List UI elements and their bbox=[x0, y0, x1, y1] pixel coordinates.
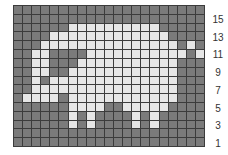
grid-cell bbox=[150, 15, 158, 23]
grid-cell bbox=[114, 6, 122, 14]
grid-cell bbox=[14, 59, 22, 67]
grid-cell bbox=[87, 41, 95, 49]
grid-cell bbox=[96, 121, 104, 129]
grid-cell bbox=[96, 59, 104, 67]
grid-cell bbox=[141, 50, 149, 58]
grid-cell bbox=[69, 85, 77, 93]
grid-cell bbox=[105, 77, 113, 85]
grid-cell bbox=[23, 15, 31, 23]
grid-cell bbox=[96, 6, 104, 14]
grid-cell bbox=[23, 77, 31, 85]
grid-cell bbox=[132, 50, 140, 58]
grid-cell bbox=[105, 32, 113, 40]
grid-cell bbox=[178, 85, 186, 93]
grid-cell bbox=[123, 103, 131, 111]
grid-cell bbox=[14, 77, 22, 85]
grid-cell bbox=[78, 121, 86, 129]
grid-cell bbox=[59, 32, 67, 40]
grid-cell bbox=[123, 138, 131, 146]
grid-cell bbox=[132, 41, 140, 49]
grid-cell bbox=[169, 121, 177, 129]
grid-cell bbox=[187, 6, 195, 14]
grid-cell bbox=[187, 41, 195, 49]
grid-cell bbox=[114, 138, 122, 146]
row-label-5: 5 bbox=[208, 104, 228, 113]
grid-cell bbox=[32, 94, 40, 102]
grid-cell bbox=[50, 41, 58, 49]
grid-cell bbox=[59, 103, 67, 111]
grid-cell bbox=[160, 41, 168, 49]
grid-cell bbox=[50, 103, 58, 111]
grid-cell bbox=[50, 68, 58, 76]
grid-cell bbox=[69, 41, 77, 49]
grid-cell bbox=[41, 129, 49, 137]
grid-cell bbox=[50, 94, 58, 102]
grid-cell bbox=[141, 15, 149, 23]
grid-cell bbox=[32, 129, 40, 137]
grid-cell bbox=[105, 24, 113, 32]
grid-cell bbox=[187, 59, 195, 67]
grid-cell bbox=[105, 103, 113, 111]
grid-cell bbox=[87, 50, 95, 58]
grid-cell bbox=[59, 50, 67, 58]
grid-cell bbox=[32, 68, 40, 76]
grid-cell bbox=[41, 112, 49, 120]
grid-cell bbox=[187, 103, 195, 111]
grid-cell bbox=[187, 24, 195, 32]
grid-cell bbox=[14, 112, 22, 120]
grid-cell bbox=[132, 121, 140, 129]
grid-cell bbox=[78, 85, 86, 93]
grid-cell bbox=[187, 121, 195, 129]
grid-cell bbox=[169, 15, 177, 23]
grid-cell bbox=[87, 6, 95, 14]
grid-cell bbox=[169, 50, 177, 58]
grid-cell bbox=[14, 68, 22, 76]
grid-cell bbox=[105, 68, 113, 76]
grid-cell bbox=[160, 112, 168, 120]
grid-cell bbox=[169, 32, 177, 40]
grid-cell bbox=[69, 15, 77, 23]
grid-cell bbox=[132, 85, 140, 93]
grid-cell bbox=[178, 41, 186, 49]
grid-cell bbox=[41, 24, 49, 32]
grid-cell bbox=[96, 24, 104, 32]
grid-cell bbox=[41, 50, 49, 58]
grid-cell bbox=[69, 138, 77, 146]
grid-cell bbox=[114, 41, 122, 49]
grid-cell bbox=[78, 32, 86, 40]
grid-cell bbox=[150, 94, 158, 102]
grid-cell bbox=[160, 85, 168, 93]
grid-cell bbox=[59, 85, 67, 93]
grid-cell bbox=[132, 59, 140, 67]
grid-cell bbox=[96, 68, 104, 76]
grid-cell bbox=[196, 129, 204, 137]
grid-cell bbox=[123, 77, 131, 85]
grid-cell bbox=[96, 138, 104, 146]
row-label-13: 13 bbox=[208, 33, 228, 42]
grid-cell bbox=[169, 138, 177, 146]
grid-cell bbox=[23, 129, 31, 137]
grid-cell bbox=[178, 112, 186, 120]
grid-cell bbox=[87, 85, 95, 93]
grid-cell bbox=[78, 6, 86, 14]
grid-cell bbox=[178, 68, 186, 76]
grid-cell bbox=[169, 85, 177, 93]
grid-cell bbox=[32, 32, 40, 40]
grid-cell bbox=[50, 121, 58, 129]
grid-cell bbox=[69, 94, 77, 102]
grid-cell bbox=[169, 6, 177, 14]
grid-cell bbox=[23, 112, 31, 120]
row-label-3: 3 bbox=[208, 121, 228, 130]
grid-cell bbox=[87, 138, 95, 146]
grid-cell bbox=[105, 6, 113, 14]
grid-cell bbox=[196, 94, 204, 102]
grid-cell bbox=[96, 112, 104, 120]
grid-cell bbox=[105, 15, 113, 23]
grid-cell bbox=[23, 59, 31, 67]
grid-cell bbox=[105, 85, 113, 93]
grid-cell bbox=[178, 6, 186, 14]
grid-cell bbox=[114, 85, 122, 93]
grid-cell bbox=[150, 129, 158, 137]
grid-cell bbox=[32, 6, 40, 14]
grid-cell bbox=[23, 85, 31, 93]
